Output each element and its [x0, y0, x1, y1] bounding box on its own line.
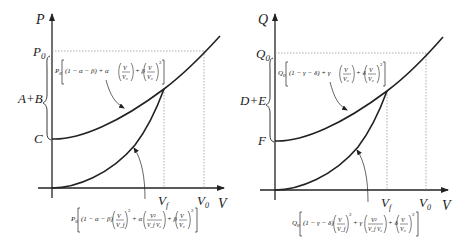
p-axis-label: P	[35, 12, 45, 27]
lower-formula-pointer-left	[134, 148, 145, 199]
upper-formula-right: Q0 (1 − γ − δ) + γ V V₀ + δ V V₀ 2	[278, 62, 385, 86]
svg-text:V: V	[338, 217, 343, 223]
svg-text:V: V	[369, 67, 374, 73]
lower-curve-left	[52, 89, 164, 188]
svg-text:(1 − γ − δ) + γ: (1 − γ − δ) + γ	[289, 69, 331, 77]
v0-tick-label-left: V0	[197, 193, 209, 210]
brace-left	[43, 56, 51, 140]
v-axis-label-right: V	[442, 198, 452, 213]
svg-text:V₀: V₀	[368, 76, 374, 82]
svg-text:2: 2	[159, 60, 162, 65]
left-panel: P P0 A+B C Vf V0 V P0 (1 − α − β) + α V …	[17, 12, 228, 232]
a-plus-b-label: A+B	[17, 91, 43, 106]
diagram-canvas: P P0 A+B C Vf V0 V P0 (1 − α − β) + α V …	[0, 0, 471, 251]
svg-text:V₀: V₀	[400, 226, 406, 232]
brace-right	[266, 58, 274, 142]
vf-tick-label-right: Vf	[381, 195, 393, 212]
d-plus-e-label: D+E	[239, 93, 266, 108]
svg-text:2: 2	[128, 208, 131, 213]
svg-text:V₀: V₀	[147, 74, 153, 80]
svg-text:V: V	[180, 213, 185, 219]
upper-curve-left	[52, 36, 220, 139]
right-panel: Q Q0 D+E F Vf V0 V Q0 (1 − γ − δ) + γ V …	[239, 12, 452, 236]
svg-text:V: V	[401, 217, 406, 223]
v-axis-label-left: V	[218, 196, 228, 211]
p0-label: P0	[32, 44, 46, 61]
lower-formula-pointer-right	[357, 150, 368, 202]
svg-text:V_f V₀: V_f V₀	[147, 222, 161, 228]
svg-text:V: V	[123, 65, 128, 71]
f-intercept-label: F	[257, 133, 267, 148]
svg-text:V: V	[344, 67, 349, 73]
svg-text:V_f V₀: V_f V₀	[368, 226, 382, 232]
svg-text:(1 − α − β): (1 − α − β)	[81, 215, 113, 223]
svg-text:V²: V²	[371, 217, 377, 223]
svg-text:V_f: V_f	[337, 226, 347, 232]
q0-label: Q0	[256, 46, 270, 63]
svg-text:2: 2	[191, 208, 194, 213]
lower-formula-right: Q0 (1 − γ − δ) V V_f 2 + γ V² V_f V₀ + δ…	[292, 212, 418, 236]
svg-text:P0: P0	[70, 215, 78, 224]
v0-tick-label-right: V0	[419, 195, 431, 212]
svg-text:(1 − α − β) + α: (1 − α − β) + α	[65, 67, 109, 75]
q-axis-label: Q	[258, 12, 268, 27]
svg-text:V²: V²	[150, 213, 156, 219]
svg-text:V₀: V₀	[122, 74, 128, 80]
upper-formula-left: P0 (1 − α − β) + α V V₀ + β V V₀ 2	[54, 60, 164, 84]
svg-text:2: 2	[349, 212, 352, 217]
svg-text:2: 2	[380, 62, 383, 67]
upper-formula-pointer-right	[330, 82, 347, 110]
svg-text:Q0: Q0	[292, 219, 300, 228]
vf-tick-label-left: Vf	[158, 193, 170, 210]
svg-text:V₀: V₀	[179, 222, 185, 228]
svg-text:V_f: V_f	[116, 222, 126, 228]
svg-text:Q0: Q0	[278, 69, 286, 78]
lower-formula-left: P0 (1 − α − β) V V_f 2 + α V² V_f V₀ + β…	[70, 208, 197, 232]
svg-text:(1 − γ − δ): (1 − γ − δ)	[303, 219, 334, 227]
lower-curve-right	[275, 91, 387, 190]
svg-text:2: 2	[412, 212, 415, 217]
svg-text:P0: P0	[54, 67, 62, 76]
svg-text:V₀: V₀	[343, 76, 349, 82]
svg-text:+ α: + α	[132, 215, 142, 223]
svg-text:V: V	[148, 65, 153, 71]
svg-text:+ γ: + γ	[353, 219, 362, 227]
upper-formula-pointer-left	[106, 80, 124, 108]
c-intercept-label: C	[34, 131, 43, 146]
svg-text:V: V	[117, 213, 122, 219]
